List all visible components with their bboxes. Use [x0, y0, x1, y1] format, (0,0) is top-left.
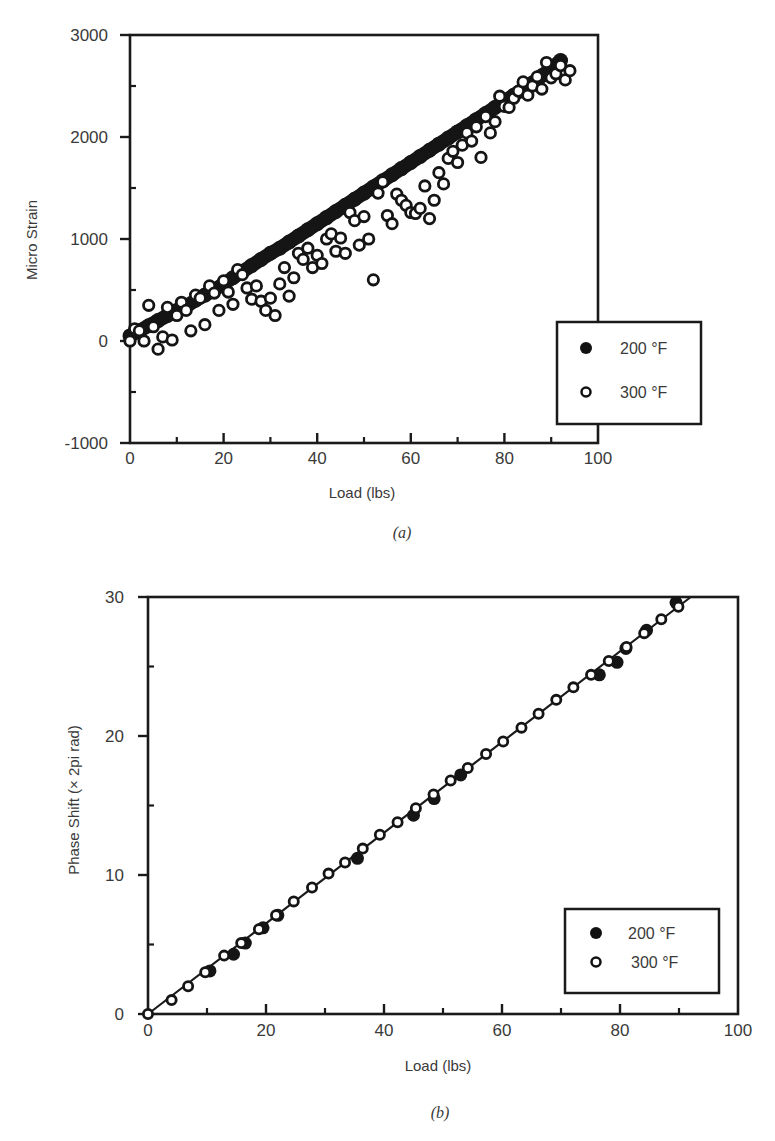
open-circle-icon [582, 388, 591, 397]
plot-b-x-axis-title: Load (lbs) [405, 1057, 472, 1074]
svg-text:2000: 2000 [70, 128, 108, 147]
svg-text:40: 40 [308, 449, 327, 468]
plot-a-x-axis-title: Load (lbs) [329, 484, 396, 501]
plot-a-legend-box [557, 322, 701, 424]
svg-text:0: 0 [115, 1005, 124, 1024]
svg-text:20: 20 [214, 449, 233, 468]
svg-text:0: 0 [125, 449, 134, 468]
svg-text:0: 0 [99, 332, 108, 351]
plot-a-caption: (a) [393, 524, 412, 542]
plot-b-y-tick-labels: 0102030 [105, 588, 124, 1024]
svg-text:20: 20 [105, 727, 124, 746]
plot-b-x-tick-labels: 020406080100 [143, 1021, 752, 1040]
plot-b-legend-label-200: 200 °F [628, 925, 676, 942]
plot-b-legend-label-300: 300 °F [631, 954, 679, 971]
plot-b: 0102030 020406080100 Phase Shift (× 2pi … [65, 588, 752, 1122]
plot-b-legend-box [565, 909, 719, 993]
svg-text:30: 30 [105, 588, 124, 607]
open-circle-icon [592, 958, 601, 967]
plot-a-legend-label-200: 200 °F [620, 340, 668, 357]
plot-a-y-tick-labels: -10000100020003000 [65, 26, 108, 453]
plot-a-legend-label-300: 300 °F [620, 384, 668, 401]
svg-text:40: 40 [375, 1021, 394, 1040]
plot-a-data-points [123, 53, 576, 354]
svg-text:1000: 1000 [70, 230, 108, 249]
figure: -10000100020003000 020406080100 Micro St… [0, 0, 775, 1141]
svg-text:60: 60 [493, 1021, 512, 1040]
plot-b-y-axis-title: Phase Shift (× 2pi rad) [65, 725, 82, 875]
plot-b-caption: (b) [431, 1104, 450, 1122]
svg-text:100: 100 [724, 1021, 752, 1040]
plot-b-legend: 200 °F 300 °F [565, 909, 719, 993]
filled-circle-icon [580, 342, 592, 354]
svg-text:80: 80 [495, 449, 514, 468]
plot-a: -10000100020003000 020406080100 Micro St… [23, 26, 701, 542]
svg-text:10: 10 [105, 866, 124, 885]
plot-a-y-axis-title: Micro Strain [23, 200, 40, 280]
filled-circle-icon [590, 927, 602, 939]
svg-text:100: 100 [584, 449, 612, 468]
svg-text:-1000: -1000 [65, 434, 108, 453]
plot-a-x-tick-labels: 020406080100 [125, 449, 612, 468]
svg-text:60: 60 [401, 449, 420, 468]
svg-text:80: 80 [611, 1021, 630, 1040]
plot-a-legend: 200 °F 300 °F [557, 322, 701, 424]
svg-text:20: 20 [257, 1021, 276, 1040]
svg-text:3000: 3000 [70, 26, 108, 45]
svg-text:0: 0 [143, 1021, 152, 1040]
